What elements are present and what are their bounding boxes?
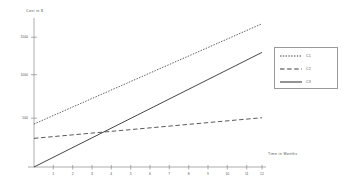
chart-figure: Cost in $ Time in Months 1500 1000 500 1…	[0, 0, 353, 189]
x-tick-label-2: 2	[68, 172, 78, 176]
x-tick-label-9: 9	[203, 172, 213, 176]
x-tick-label-4: 4	[106, 172, 116, 176]
x-tick-label-6: 6	[145, 172, 155, 176]
legend-swatch-dotted	[280, 54, 302, 58]
x-tick-label-3: 3	[87, 172, 97, 176]
legend-label-c2: C2	[306, 67, 311, 71]
x-tick-label-8: 8	[184, 172, 194, 176]
series-line-c1	[34, 24, 262, 124]
legend-label-c3: C3	[306, 80, 311, 84]
legend-item-c3[interactable]: C3	[280, 77, 336, 87]
legend-swatch-solid	[280, 80, 302, 84]
legend-item-c1[interactable]: C1	[280, 51, 336, 61]
y-tick-label-500: 500	[12, 116, 28, 120]
x-tick-label-12: 12	[257, 172, 267, 176]
x-tick-label-7: 7	[164, 172, 174, 176]
x-axis-title: Time in Months	[268, 152, 297, 156]
y-tick-label-1000: 1000	[12, 73, 28, 77]
y-axis-title: Cost in $	[26, 9, 43, 13]
x-tick-label-10: 10	[222, 172, 232, 176]
legend: C1 C2 C3	[274, 47, 338, 89]
plot-area	[0, 0, 353, 189]
legend-item-c2[interactable]: C2	[280, 64, 336, 74]
legend-label-c1: C1	[306, 54, 311, 58]
series-line-c3	[34, 52, 262, 167]
x-tick-label-1: 1	[48, 172, 58, 176]
series-line-c2	[34, 118, 262, 139]
y-tick-label-1500: 1500	[12, 35, 28, 39]
x-tick-label-11: 11	[242, 172, 252, 176]
legend-swatch-dashed	[280, 67, 302, 71]
x-tick-label-5: 5	[126, 172, 136, 176]
